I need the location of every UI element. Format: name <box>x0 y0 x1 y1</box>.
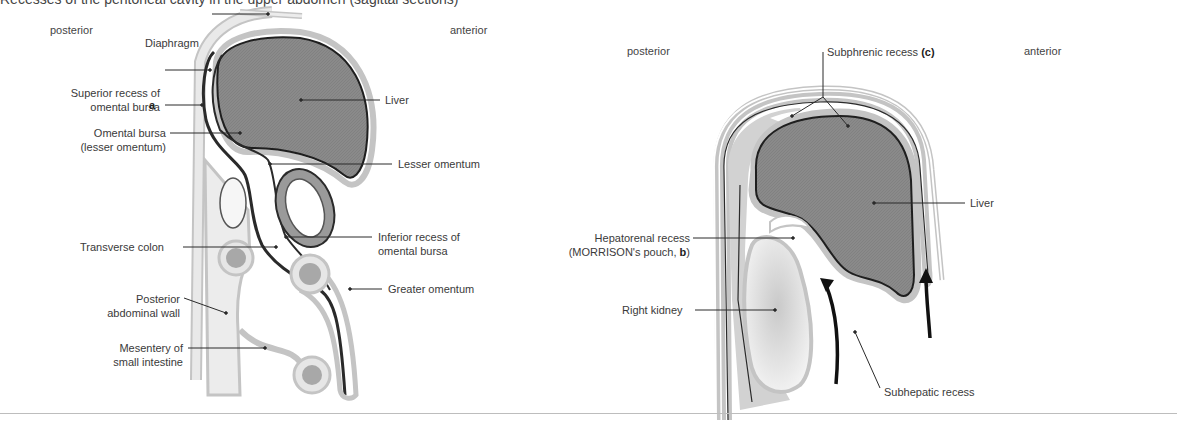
label-subhepatic-recess: Subhepatic recess <box>884 385 975 399</box>
label-hepatorenal-text: (MORRISON's pouch, <box>569 246 680 258</box>
anatomy-figure <box>0 0 1177 436</box>
label-superior-recess: Superior recess of omental bursa <box>52 86 160 114</box>
label-lesser-omentum: Lesser omentum <box>398 157 480 171</box>
label-inferior-recess-line1: Inferior recess of <box>378 230 460 244</box>
label-mesentery-line1: Mesentery of <box>85 341 183 355</box>
label-posterior-wall-line1: Posterior <box>80 292 180 306</box>
label-posterior-wall-line2: abdominal wall <box>80 306 180 320</box>
bottom-separator <box>0 413 1177 414</box>
label-subphrenic-text: Subphrenic recess <box>827 46 921 58</box>
label-mesentery: Mesentery of small intestine <box>85 341 183 369</box>
right-orientation-anterior: anterior <box>1024 45 1061 57</box>
right-orientation-posterior: posterior <box>627 45 670 57</box>
label-subphrenic-recess: Subphrenic recess (c) <box>827 45 935 59</box>
label-right-kidney: Right kidney <box>622 303 683 317</box>
label-greater-omentum: Greater omentum <box>388 282 474 296</box>
label-inferior-recess: Inferior recess of omental bursa <box>378 230 460 258</box>
label-subphrenic-letter: (c) <box>921 46 934 58</box>
label-inferior-recess-line2: omental bursa <box>378 244 460 258</box>
left-orientation-anterior: anterior <box>450 24 487 36</box>
label-diaphragm: Diaphragm <box>145 36 199 50</box>
label-omental-bursa: Omental bursa (lesser omentum) <box>62 126 166 154</box>
label-posterior-abdominal-wall: Posterior abdominal wall <box>80 292 180 320</box>
label-hepatorenal-close: ) <box>686 246 690 258</box>
label-omental-bursa-line1: Omental bursa <box>62 126 166 140</box>
label-hepatorenal-line2: (MORRISON's pouch, b) <box>540 245 690 259</box>
label-liver-left: Liver <box>385 93 409 107</box>
label-mesentery-line2: small intestine <box>85 355 183 369</box>
label-hepatorenal-recess: Hepatorenal recess (MORRISON's pouch, b) <box>540 231 690 259</box>
label-superior-recess-line2: omental bursa <box>52 100 160 114</box>
label-hepatorenal-line1: Hepatorenal recess <box>540 231 690 245</box>
label-a: a <box>149 98 155 112</box>
left-orientation-posterior: posterior <box>50 24 93 36</box>
label-liver-right: Liver <box>970 196 994 210</box>
label-transverse-colon: Transverse colon <box>80 240 164 254</box>
label-omental-bursa-line2: (lesser omentum) <box>62 140 166 154</box>
label-superior-recess-line1: Superior recess of <box>52 86 160 100</box>
left-sagittal-diagram <box>165 12 392 398</box>
right-sagittal-diagram <box>693 52 965 420</box>
